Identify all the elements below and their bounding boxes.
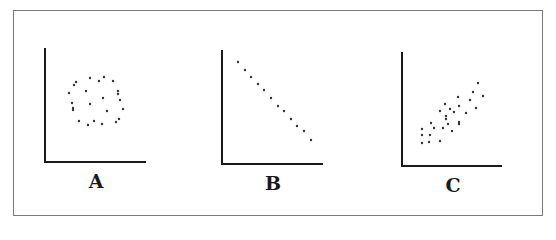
- label-c: C: [445, 174, 460, 196]
- data-point: [119, 99, 121, 101]
- data-point: [89, 103, 91, 105]
- data-point: [477, 82, 479, 84]
- data-point: [303, 130, 305, 132]
- data-point: [115, 121, 117, 123]
- data-point: [429, 134, 431, 136]
- data-point: [98, 80, 100, 82]
- data-point: [465, 112, 467, 114]
- data-point: [458, 105, 460, 107]
- data-point: [112, 80, 114, 82]
- data-point: [421, 128, 423, 130]
- data-point: [250, 76, 252, 78]
- data-point: [89, 77, 91, 79]
- data-point: [117, 93, 119, 95]
- data-point: [290, 118, 292, 120]
- data-point: [106, 110, 108, 112]
- axes-b: [222, 50, 323, 164]
- label-b: B: [265, 172, 281, 194]
- scatter-plot-c: C: [402, 52, 502, 196]
- data-point: [75, 81, 77, 83]
- data-point: [442, 127, 444, 129]
- data-point: [475, 107, 477, 109]
- data-point: [453, 111, 455, 113]
- data-point: [472, 91, 474, 93]
- data-point: [449, 108, 451, 110]
- data-point: [93, 120, 95, 122]
- axes-a: [45, 48, 146, 162]
- data-point: [85, 90, 87, 92]
- points-b: [237, 61, 312, 141]
- data-point: [439, 110, 441, 112]
- data-point: [257, 83, 259, 85]
- scatter-plot-b: B: [222, 50, 323, 194]
- data-point: [87, 124, 89, 126]
- points-a: [68, 76, 124, 126]
- data-point: [103, 76, 105, 78]
- label-a: A: [88, 170, 104, 192]
- data-point: [102, 97, 104, 99]
- data-point: [117, 90, 119, 92]
- data-point: [78, 120, 80, 122]
- data-point: [482, 95, 484, 97]
- data-point: [72, 109, 74, 111]
- data-point: [310, 139, 312, 141]
- data-point: [118, 118, 120, 120]
- data-point: [122, 108, 124, 110]
- data-point: [428, 141, 430, 143]
- data-point: [430, 122, 432, 124]
- data-point: [421, 134, 423, 136]
- data-point: [68, 92, 70, 94]
- points-c: [421, 82, 484, 144]
- data-point: [447, 123, 449, 125]
- data-point: [73, 84, 75, 86]
- data-point: [270, 97, 272, 99]
- data-point: [263, 89, 265, 91]
- data-point: [433, 127, 435, 129]
- data-point: [71, 102, 73, 104]
- data-point: [277, 105, 279, 107]
- data-point: [445, 115, 447, 117]
- data-point: [444, 103, 446, 105]
- data-point: [421, 142, 423, 144]
- data-point: [439, 140, 441, 142]
- axes-c: [402, 52, 502, 166]
- data-point: [445, 118, 447, 120]
- data-point: [469, 99, 471, 101]
- data-point: [283, 110, 285, 112]
- data-point: [457, 96, 459, 98]
- data-point: [296, 125, 298, 127]
- data-point: [237, 61, 239, 63]
- data-point: [101, 123, 103, 125]
- scatter-plot-a: A: [45, 48, 146, 192]
- data-point: [458, 123, 460, 125]
- data-point: [451, 130, 453, 132]
- data-point: [244, 69, 246, 71]
